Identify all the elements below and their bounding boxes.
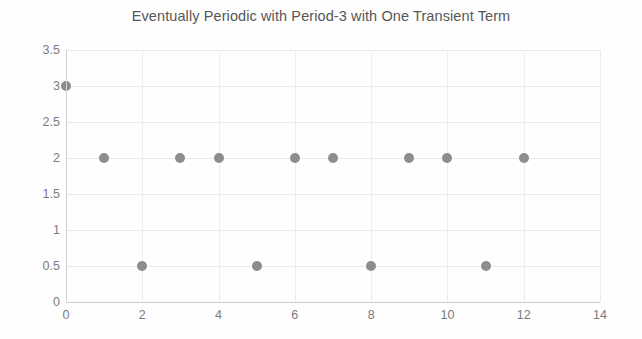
data-point: [290, 153, 300, 163]
data-point: [404, 153, 414, 163]
chart-figure: Eventually Periodic with Period-3 with O…: [0, 0, 642, 339]
y-tick-label: 1.5: [20, 187, 60, 201]
data-point: [442, 153, 452, 163]
chart-title: Eventually Periodic with Period-3 with O…: [0, 8, 642, 24]
gridline-horizontal: [66, 86, 600, 87]
data-point: [328, 153, 338, 163]
gridline-horizontal: [66, 194, 600, 195]
data-point: [99, 153, 109, 163]
gridline-vertical: [219, 50, 220, 302]
y-tick-label: 1: [20, 223, 60, 237]
gridline-vertical: [295, 50, 296, 302]
gridline-horizontal: [66, 230, 600, 231]
gridline-vertical: [524, 50, 525, 302]
x-tick-label: 12: [504, 308, 544, 322]
plot-area: [66, 50, 600, 302]
y-tick-label: 3.5: [20, 43, 60, 57]
gridline-horizontal: [66, 50, 600, 51]
x-tick-label: 2: [122, 308, 162, 322]
y-tick-label: 2: [20, 151, 60, 165]
x-tick-label: 4: [199, 308, 239, 322]
gridline-horizontal: [66, 122, 600, 123]
x-tick-label: 14: [580, 308, 620, 322]
data-point: [175, 153, 185, 163]
y-axis-line: [66, 50, 67, 303]
x-tick-label: 0: [46, 308, 86, 322]
data-point: [137, 261, 147, 271]
data-point: [214, 153, 224, 163]
data-point: [519, 153, 529, 163]
data-point: [481, 261, 491, 271]
gridline-vertical: [600, 50, 601, 302]
y-tick-label: 0.5: [20, 259, 60, 273]
data-point: [252, 261, 262, 271]
gridline-vertical: [447, 50, 448, 302]
data-point: [366, 261, 376, 271]
y-tick-label: 2.5: [20, 115, 60, 129]
x-axis-line: [66, 302, 600, 303]
x-tick-label: 8: [351, 308, 391, 322]
y-axis-tick-labels: 00.511.522.533.5: [18, 0, 60, 339]
x-tick-label: 10: [427, 308, 467, 322]
x-tick-label: 6: [275, 308, 315, 322]
y-tick-label: 3: [20, 79, 60, 93]
y-tick-label: 0: [20, 295, 60, 309]
